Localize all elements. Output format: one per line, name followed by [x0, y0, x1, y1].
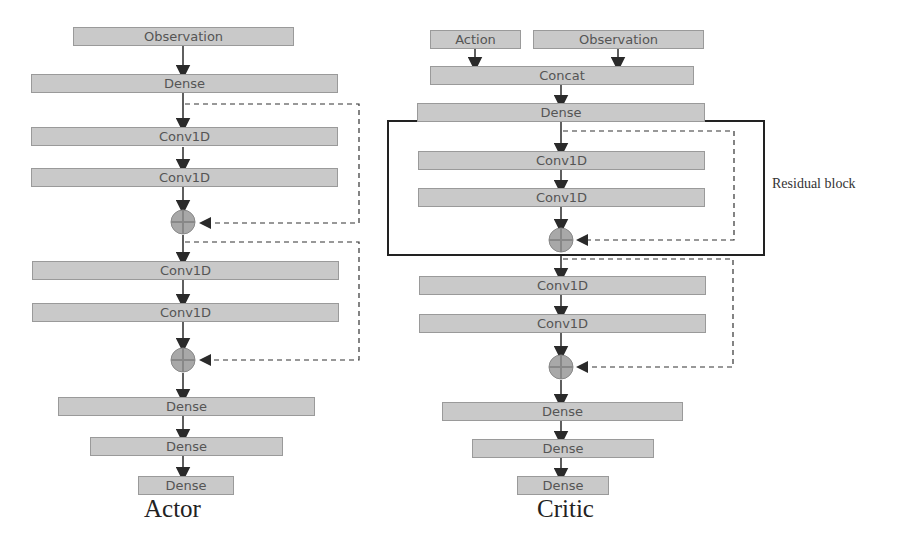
actor-dense-layer: Dense	[138, 476, 234, 495]
actor-dense-layer: Dense	[31, 74, 338, 93]
critic-dense-layer: Dense	[417, 103, 705, 122]
critic-conv1d-layer: Conv1D	[418, 151, 705, 170]
critic-dense-layer: Dense	[517, 476, 609, 495]
critic-observation-input: Observation	[533, 30, 704, 49]
actor-conv1d-layer: Conv1D	[32, 261, 339, 280]
critic-concat-layer: Concat	[430, 66, 694, 85]
residual-block-label: Residual block	[772, 176, 856, 192]
actor-conv1d-layer: Conv1D	[31, 127, 338, 146]
actor-caption: Actor	[144, 495, 201, 523]
actor-conv1d-layer: Conv1D	[32, 303, 339, 322]
critic-action-input: Action	[430, 30, 521, 49]
critic-dense-layer: Dense	[472, 439, 654, 458]
actor-dense-layer: Dense	[58, 397, 315, 416]
actor-conv1d-layer: Conv1D	[31, 168, 338, 187]
actor-dense-layer: Dense	[90, 437, 283, 456]
critic-dense-layer: Dense	[442, 402, 683, 421]
critic-conv1d-layer: Conv1D	[419, 314, 706, 333]
actor-observation-layer: Observation	[73, 27, 294, 46]
critic-conv1d-layer: Conv1D	[419, 276, 706, 295]
critic-caption: Critic	[537, 495, 594, 523]
critic-conv1d-layer: Conv1D	[418, 188, 705, 207]
